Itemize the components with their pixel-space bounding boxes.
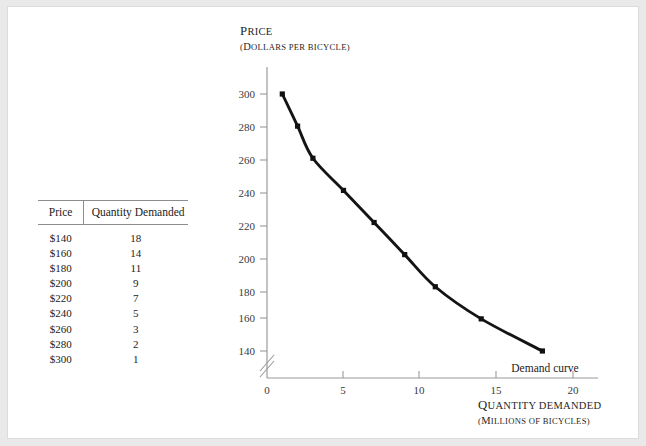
y-tick-label-300: 300	[239, 88, 256, 100]
table-row: $200 9	[38, 276, 188, 291]
cell-quantity: 9	[84, 276, 188, 291]
cell-price: $260	[38, 321, 84, 336]
cell-price: $160	[38, 246, 84, 261]
demand-curve-line	[282, 94, 542, 351]
y-tick-label-220: 220	[239, 220, 256, 232]
table-row: $240 5	[38, 306, 188, 321]
cell-price: $280	[38, 336, 84, 351]
cell-quantity: 3	[84, 321, 188, 336]
x-tick-label-20: 20	[568, 384, 580, 396]
cell-quantity: 7	[84, 291, 188, 306]
cell-quantity: 5	[84, 306, 188, 321]
table-row: $280 2	[38, 336, 188, 351]
table-row: $300 1	[38, 351, 188, 366]
x-tick-label-5: 5	[340, 384, 346, 396]
table-row: $260 3	[38, 321, 188, 336]
plot-area: 300 280 260 240 220 200 180 160 140 0 5 …	[230, 15, 630, 435]
cell-price: $200	[38, 276, 84, 291]
y-tick-label-160: 160	[239, 312, 256, 324]
cell-quantity: 18	[84, 225, 188, 246]
cell-quantity: 1	[84, 351, 188, 366]
column-header-quantity-demanded: Quantity Demanded	[84, 201, 188, 225]
cell-price: $300	[38, 351, 84, 366]
data-point-marker	[341, 188, 346, 193]
cell-price: $140	[38, 225, 84, 246]
data-point-marker	[402, 252, 407, 257]
cell-price: $180	[38, 261, 84, 276]
x-tick-label-10: 10	[414, 384, 426, 396]
demand-curve-markers	[280, 91, 545, 353]
data-point-marker	[280, 91, 285, 96]
figure-canvas: Price Quantity Demanded $140 18 $160 14 …	[8, 7, 638, 438]
y-tick-label-200: 200	[239, 253, 256, 265]
cell-quantity: 14	[84, 246, 188, 261]
cell-price: $240	[38, 306, 84, 321]
demand-curve-chart: PRICE (DOLLARS PER BICYCLE) QUANTITY DEM…	[230, 15, 630, 435]
y-tick-label-260: 260	[239, 154, 256, 166]
table-header-row: Price Quantity Demanded	[38, 201, 188, 225]
demand-schedule-table: Price Quantity Demanded $140 18 $160 14 …	[38, 200, 188, 366]
table-row: $160 14	[38, 246, 188, 261]
demand-curve-annotation: Demand curve	[511, 362, 578, 374]
data-point-marker	[295, 124, 300, 129]
data-point-marker	[372, 220, 377, 225]
table-row: $140 18	[38, 225, 188, 246]
table-body: $140 18 $160 14 $180 11 $200 9 $220 7 $2…	[38, 225, 188, 367]
y-tick-label-180: 180	[239, 286, 256, 298]
data-point-marker	[310, 156, 315, 161]
table-row: $220 7	[38, 291, 188, 306]
data-point-marker	[433, 284, 438, 289]
table-row: $180 11	[38, 261, 188, 276]
x-tick-label-0: 0	[264, 384, 270, 396]
cell-quantity: 2	[84, 336, 188, 351]
x-tick-label-15: 15	[491, 384, 503, 396]
column-header-price: Price	[38, 201, 84, 225]
y-axis-ticks	[260, 94, 267, 351]
y-tick-label-240: 240	[239, 187, 256, 199]
y-tick-label-280: 280	[239, 121, 256, 133]
cell-price: $220	[38, 291, 84, 306]
cell-quantity: 11	[84, 261, 188, 276]
data-point-marker	[479, 316, 484, 321]
data-point-marker	[540, 348, 545, 353]
y-tick-label-140: 140	[239, 345, 256, 357]
